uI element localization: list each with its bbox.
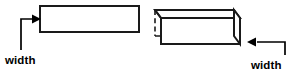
left-width-callout	[21, 14, 41, 50]
right-width-label: width	[250, 59, 282, 71]
rectangle-outline	[40, 6, 139, 32]
right-leader-line	[257, 42, 285, 55]
geometry-figure: width width	[0, 0, 292, 72]
right-arrow-head-icon	[247, 37, 256, 46]
left-leader-line	[21, 19, 34, 50]
left-width-label: width	[4, 54, 36, 66]
rectangular-prism-shape	[155, 10, 240, 44]
figure-canvas: width width	[0, 0, 292, 72]
right-width-callout	[247, 37, 285, 55]
rectangle-shape	[40, 6, 139, 32]
prism-front-face	[161, 18, 240, 44]
prism-top-face	[155, 10, 240, 18]
